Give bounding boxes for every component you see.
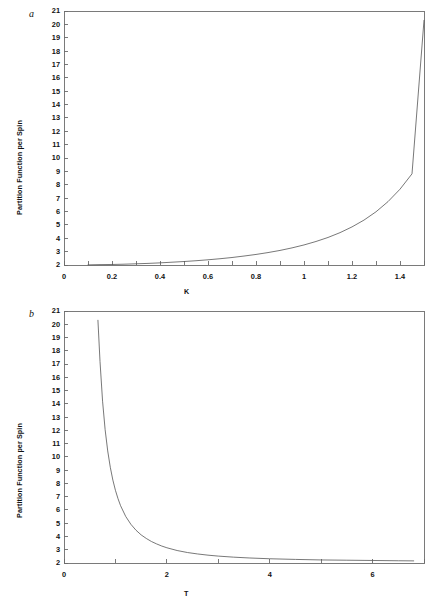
y-tick-label: 10 bbox=[40, 453, 60, 460]
y-tick-label: 15 bbox=[40, 88, 60, 95]
y-tick-label: 3 bbox=[40, 546, 60, 553]
data-curve bbox=[98, 320, 414, 561]
x-tick-label: 0.8 bbox=[241, 273, 271, 280]
y-tick-label: 15 bbox=[40, 387, 60, 394]
x-tick-label: 0.2 bbox=[97, 273, 127, 280]
y-tick-label: 16 bbox=[40, 374, 60, 381]
y-tick-label: 2 bbox=[40, 559, 60, 566]
y-tick-label: 9 bbox=[40, 168, 60, 175]
y-tick-label: 7 bbox=[40, 493, 60, 500]
y-tick-label: 7 bbox=[40, 195, 60, 202]
y-tick-label: 6 bbox=[40, 506, 60, 513]
y-tick-label: 2 bbox=[40, 261, 60, 268]
y-tick-label: 20 bbox=[40, 321, 60, 328]
plot-area-a bbox=[0, 0, 435, 300]
x-tick-label: 0 bbox=[49, 273, 79, 280]
data-curve bbox=[88, 20, 424, 265]
chart-panel-a: a Partition Function per Spin K 23456789… bbox=[0, 0, 435, 300]
y-tick-label: 13 bbox=[40, 414, 60, 421]
y-tick-label: 5 bbox=[40, 221, 60, 228]
y-tick-label: 21 bbox=[40, 307, 60, 314]
figure-page: a Partition Function per Spin K 23456789… bbox=[0, 0, 435, 603]
y-tick-label: 6 bbox=[40, 208, 60, 215]
y-tick-label: 17 bbox=[40, 360, 60, 367]
y-tick-label: 8 bbox=[40, 181, 60, 188]
x-tick-label: 4 bbox=[255, 571, 285, 578]
plot-area-b bbox=[0, 300, 435, 603]
y-tick-label: 5 bbox=[40, 520, 60, 527]
y-tick-label: 14 bbox=[40, 101, 60, 108]
y-tick-label: 18 bbox=[40, 48, 60, 55]
y-tick-label: 10 bbox=[40, 154, 60, 161]
x-tick-label: 1 bbox=[289, 273, 319, 280]
x-tick-label: 1.4 bbox=[385, 273, 415, 280]
y-tick-label: 21 bbox=[40, 7, 60, 14]
y-tick-label: 11 bbox=[40, 141, 60, 148]
x-tick-label: 0 bbox=[49, 571, 79, 578]
y-tick-label: 12 bbox=[40, 427, 60, 434]
y-tick-label: 19 bbox=[40, 334, 60, 341]
y-tick-label: 18 bbox=[40, 347, 60, 354]
y-tick-label: 8 bbox=[40, 480, 60, 487]
x-tick-label: 1.2 bbox=[337, 273, 367, 280]
y-tick-label: 17 bbox=[40, 61, 60, 68]
y-tick-label: 19 bbox=[40, 34, 60, 41]
y-tick-label: 9 bbox=[40, 467, 60, 474]
y-tick-label: 12 bbox=[40, 128, 60, 135]
x-tick-label: 2 bbox=[152, 571, 182, 578]
y-tick-label: 20 bbox=[40, 21, 60, 28]
y-tick-label: 3 bbox=[40, 248, 60, 255]
y-tick-label: 13 bbox=[40, 114, 60, 121]
y-tick-label: 4 bbox=[40, 533, 60, 540]
y-tick-label: 11 bbox=[40, 440, 60, 447]
y-tick-label: 16 bbox=[40, 74, 60, 81]
chart-panel-b: b Partition Function per Spin T 23456789… bbox=[0, 300, 435, 603]
y-tick-label: 4 bbox=[40, 235, 60, 242]
x-tick-label: 0.6 bbox=[193, 273, 223, 280]
x-tick-label: 0.4 bbox=[145, 273, 175, 280]
y-tick-label: 14 bbox=[40, 400, 60, 407]
x-tick-label: 6 bbox=[358, 571, 388, 578]
